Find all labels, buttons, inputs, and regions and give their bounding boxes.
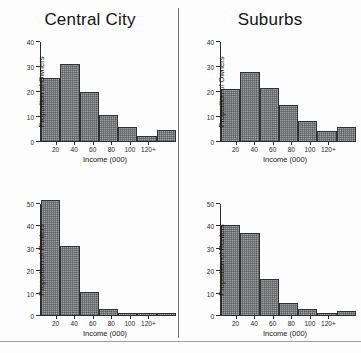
x-axis-tick-label: 20 [52,320,59,327]
x-axis-tick-label: 60 [89,146,96,153]
histogram-bar [317,313,336,315]
bar-series [221,204,356,315]
histogram-bar [60,246,79,315]
x-axis-tick-label: 40 [251,146,258,153]
histogram-bar [99,309,118,315]
x-axis-tick [328,142,329,145]
histogram-bar [240,72,259,141]
y-axis-tick-label: 30 [27,245,34,252]
y-axis-tick [216,66,220,67]
x-axis-tick-label: 20 [52,146,59,153]
y-axis-label: Proportion of Renters [217,224,226,295]
plot-area: Income (000) Proportion of Owners 010203… [220,42,350,142]
x-axis-line [220,141,356,142]
x-axis-line [220,315,356,316]
histogram-bar [80,92,99,142]
x-axis-tick [93,316,94,319]
histogram-bar [240,233,259,315]
x-axis-tick [310,316,311,319]
histogram-bar [279,303,298,315]
bar-series [41,204,176,315]
y-axis-tick [36,315,40,316]
x-axis-tick [130,316,131,319]
x-axis-tick-label: 80 [288,320,295,327]
y-axis-tick-label: 50 [27,201,34,208]
y-axis-tick-label: 10 [27,114,34,121]
bar-series [221,42,356,141]
histogram-bar [298,121,317,141]
y-axis-tick-label: 20 [207,89,214,96]
y-axis-tick-label: 0 [210,139,214,146]
histogram-bar [118,127,137,141]
x-axis-tick [273,142,274,145]
x-axis-tick-label: 60 [89,320,96,327]
x-axis-tick [56,142,57,145]
x-axis-tick [328,316,329,319]
x-axis-tick [291,142,292,145]
x-axis-tick-label: 120+ [141,146,156,153]
x-axis-tick-label: 60 [269,320,276,327]
x-axis-tick-label: 40 [71,146,78,153]
histogram-bar [298,309,317,315]
y-axis-tick [36,141,40,142]
x-axis-tick [111,316,112,319]
histogram-bar [99,115,118,141]
y-axis-tick-label: 0 [30,139,34,146]
y-axis-tick-label: 50 [207,201,214,208]
x-axis-tick-label: 80 [108,320,115,327]
histogram-bar [157,130,176,141]
y-axis-tick [216,91,220,92]
histogram-bar [260,279,279,315]
y-axis-tick-label: 20 [27,268,34,275]
x-axis-tick [148,142,149,145]
x-axis-tick-label: 40 [251,320,258,327]
y-axis-tick [216,270,220,271]
x-axis-tick [93,142,94,145]
plot-area: Income (000) Proportion of Renters 01020… [220,204,350,316]
x-axis-tick [74,142,75,145]
y-axis-tick [36,225,40,226]
x-axis-tick-label: 80 [108,146,115,153]
chart-title-central-city: Central City [0,10,180,30]
histogram-bar [137,136,156,141]
x-axis-tick-label: 120+ [321,146,336,153]
histogram-bar [317,131,336,141]
plot-area: Income (000) Proportion of Renters 01020… [40,204,170,316]
x-axis-tick-label: 100 [124,320,135,327]
y-axis-tick-label: 20 [207,268,214,275]
y-axis-tick-label: 0 [210,313,214,320]
histogram-bar [337,127,356,141]
x-axis-line [40,141,176,142]
panel-central-city-renters: Income (000) Proportion of Renters 01020… [0,176,180,352]
x-axis-tick [236,142,237,145]
y-axis-tick [36,91,40,92]
plot-area: Income (000) Proportion of Owners 010203… [40,42,170,142]
figure-canvas: Central City Income (000) Proportion of … [0,0,361,353]
x-axis-label: Income (000) [40,329,170,338]
y-axis-tick [216,293,220,294]
panel-central-city-owners: Central City Income (000) Proportion of … [0,0,180,176]
x-axis-tick-label: 100 [304,320,315,327]
x-axis-tick [130,142,131,145]
chart-title-suburbs: Suburbs [180,10,360,30]
histogram-bar [157,313,176,315]
y-axis-tick [216,225,220,226]
y-axis-tick-label: 10 [207,114,214,121]
panel-suburbs-owners: Suburbs Income (000) Proportion of Owner… [180,0,360,176]
y-axis-tick-label: 40 [207,39,214,46]
y-axis-tick [36,270,40,271]
y-axis-tick-label: 40 [27,39,34,46]
x-axis-tick-label: 20 [232,146,239,153]
y-axis-tick [36,41,40,42]
y-axis-tick [216,41,220,42]
panel-suburbs-renters: Income (000) Proportion of Renters 01020… [180,176,360,352]
y-axis-tick [216,203,220,204]
y-axis-tick [36,116,40,117]
x-axis-tick [254,316,255,319]
x-axis-tick [310,142,311,145]
histogram-bar [260,88,279,141]
x-axis-tick [56,316,57,319]
histogram-bar [279,105,298,141]
y-axis-tick-label: 0 [30,313,34,320]
x-axis-label: Income (000) [220,155,350,164]
